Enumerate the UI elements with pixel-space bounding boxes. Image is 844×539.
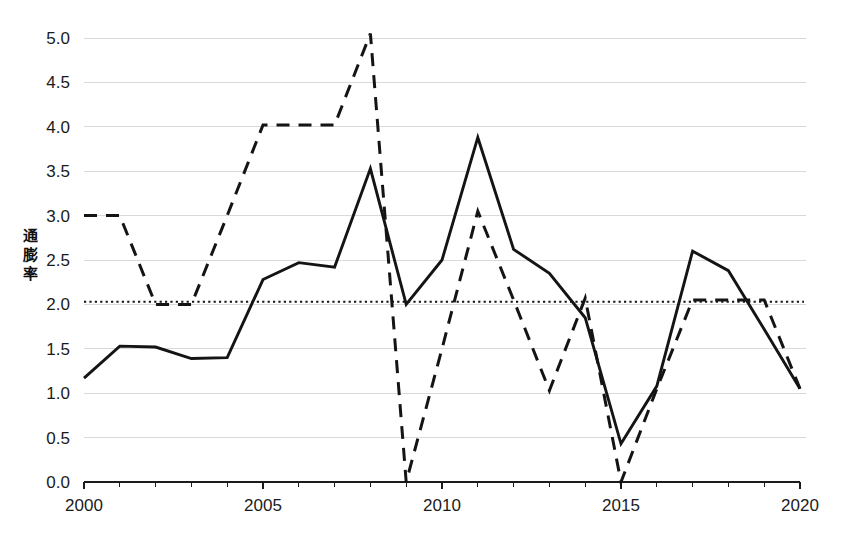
y-tick-label: 2.5 [46,251,70,270]
x-tick-label: 2005 [244,496,282,515]
x-axis-tick-labels: 20002005201020152020 [65,496,819,515]
y-tick-label: 0.5 [46,429,70,448]
gridlines [84,38,806,438]
x-tick-label: 2020 [781,496,819,515]
y-tick-label: 4.0 [46,118,70,137]
y-axis-title-char: 膨 [23,246,38,264]
y-tick-label: 5.0 [46,29,70,48]
y-tick-label: 2.0 [46,295,70,314]
series-line-solid-series [84,137,800,443]
y-tick-label: 3.0 [46,207,70,226]
y-tick-label: 4.5 [46,73,70,92]
x-tick-label: 2015 [602,496,640,515]
inflation-rate-chart: 0.00.51.01.52.02.53.03.54.04.55.0 200020… [0,0,844,539]
x-axis [84,482,800,489]
y-axis-title-char: 通 [23,227,38,245]
y-axis-tick-labels: 0.00.51.01.52.02.53.03.54.04.55.0 [46,29,70,492]
y-tick-label: 1.0 [46,384,70,403]
y-tick-label: 0.0 [46,473,70,492]
y-axis-title-char: 率 [23,265,38,283]
chart-canvas: 0.00.51.01.52.02.53.03.54.04.55.0 200020… [0,0,844,539]
x-tick-label: 2000 [65,496,103,515]
data-series-group [84,34,800,482]
x-tick-label: 2010 [423,496,461,515]
y-tick-label: 1.5 [46,340,70,359]
y-tick-label: 3.5 [46,162,70,181]
y-axis-title-group: 通膨率 [23,227,38,283]
